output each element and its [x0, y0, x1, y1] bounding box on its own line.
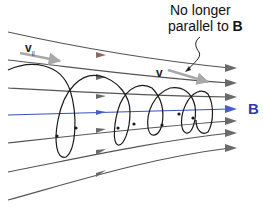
callout-text: No longer parallel to B: [170, 2, 243, 34]
field-line-1: [8, 32, 230, 68]
arrowhead-icon: [225, 144, 237, 152]
arrowhead-icon: [225, 129, 237, 137]
parallel-velocity-symbol: v: [25, 41, 32, 55]
parallel-velocity-label: v||: [25, 41, 35, 56]
arrowhead-icon: [225, 105, 237, 113]
callout-line-1: No longer: [170, 2, 243, 18]
particle-orbit: [8, 65, 213, 158]
callout-line-2-bold: B: [233, 18, 243, 34]
field-label-b: B: [248, 100, 259, 117]
field-line-4-central: [8, 109, 230, 115]
parallel-velocity-subscript: ||: [32, 50, 35, 56]
callout-line-2-prefix: parallel to: [168, 18, 233, 34]
arrowhead-icon: [225, 93, 237, 101]
velocity-label: v: [156, 66, 163, 80]
field-arrowheads: [225, 64, 237, 152]
arrowhead-icon: [225, 64, 237, 72]
orbit-direction-markers: [55, 112, 194, 137]
arrowhead-icon: [96, 52, 106, 58]
arrowhead-icon: [225, 117, 237, 125]
arrowhead-icon: [225, 79, 237, 87]
field-line-7: [8, 148, 230, 200]
callout-line-2: parallel to B: [168, 18, 243, 34]
arrowhead-icon: [96, 94, 106, 99]
